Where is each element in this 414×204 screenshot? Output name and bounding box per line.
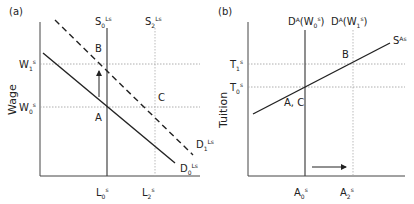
point-c-label: C	[158, 92, 165, 103]
label-d0: D0Ls	[180, 162, 198, 176]
label-w0: W0s	[19, 101, 36, 115]
point-b-label: B	[95, 43, 102, 54]
label-demand-w1: DA(W1s)	[331, 15, 368, 29]
point-ac-label: A, C	[284, 97, 304, 108]
label-t0: T0s	[229, 81, 243, 95]
label-t1: T1s	[229, 58, 243, 72]
label-s0: S0Ls	[95, 15, 112, 29]
panel-b-education-market: (b) Tuition DA(W0s) DA(W1s) SAs T1s T0s …	[217, 6, 407, 200]
label-s2: S2Ls	[145, 15, 162, 29]
label-supply-as: SAs	[393, 35, 407, 46]
label-a0: A0s	[294, 186, 308, 200]
y-axis-title-tuition: Tuition	[217, 92, 230, 129]
supply-as-line	[253, 43, 390, 114]
label-l0: L0s	[96, 186, 109, 200]
panel-a-labor-market: (a) Wage S0Ls S2Ls W1s W0s D0Ls D1Ls L0s…	[6, 6, 214, 200]
label-w1: W1s	[19, 58, 36, 72]
panel-a-tag: (a)	[9, 6, 23, 17]
demand-d1-line	[55, 20, 193, 155]
label-demand-w0: DA(W0s)	[288, 15, 325, 29]
panel-b-tag: (b)	[218, 6, 232, 17]
demand-d0-line	[43, 53, 175, 163]
diagram-canvas: (a) Wage S0Ls S2Ls W1s W0s D0Ls D1Ls L0s…	[0, 0, 414, 204]
label-l2: L2s	[142, 186, 155, 200]
point-b-label: B	[342, 49, 349, 60]
y-axis-title-wage: Wage	[6, 84, 19, 115]
label-d1: D1Ls	[196, 138, 214, 152]
label-a2: A2s	[340, 186, 354, 200]
point-a-label: A	[95, 112, 102, 123]
